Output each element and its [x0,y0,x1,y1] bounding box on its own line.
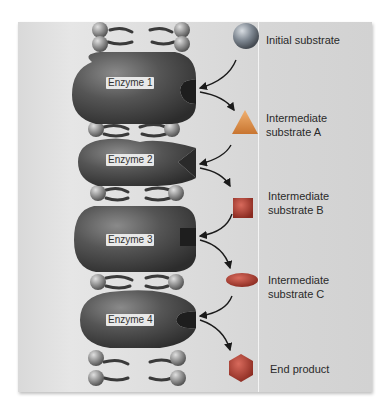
substrate-c-line2: substrate C [268,287,329,301]
substrate-b-square-icon [233,198,253,218]
substrate-b-label: Intermediate substrate B [268,189,329,217]
enzyme-1-label: Enzyme 1 [106,77,154,89]
substrate-b-line1: Intermediate [268,189,329,203]
enzyme-4-label: Enzyme 4 [106,314,154,326]
pathway-diagram [0,0,392,406]
initial-substrate-label: Initial substrate [266,33,340,47]
end-product-label: End product [270,362,329,376]
initial-substrate-sphere-icon [233,23,259,49]
substrate-a-line2: substrate A [266,125,327,139]
end-product-hexagon-icon [229,354,253,382]
enzyme-3-label: Enzyme 3 [106,234,154,246]
substrate-c-label: Intermediate substrate C [268,273,329,301]
pathway-arrows [200,60,236,350]
substrate-a-label: Intermediate substrate A [266,111,327,139]
substrate-c-ellipse-icon [226,273,258,287]
substrate-c-line1: Intermediate [268,273,329,287]
enzyme-2-label: Enzyme 2 [106,154,154,166]
substrate-b-line2: substrate B [268,203,329,217]
substrate-a-triangle-icon [232,110,258,134]
substrate-a-line1: Intermediate [266,111,327,125]
